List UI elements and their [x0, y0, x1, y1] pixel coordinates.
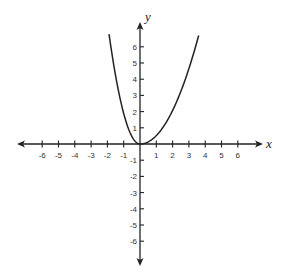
parabola-graph: x y -6-5-4-3-2-1123456-6-5-4-3-2-1123456 — [0, 0, 293, 277]
x-tick-label: 1 — [154, 151, 159, 160]
x-tick-label: 4 — [203, 151, 208, 160]
y-tick-label: -6 — [130, 237, 138, 246]
y-tick-label: -5 — [130, 221, 138, 230]
x-tick-label: 6 — [236, 151, 241, 160]
x-tick-label: 3 — [187, 151, 192, 160]
y-tick-label: 6 — [133, 43, 138, 52]
x-tick-label: -2 — [104, 151, 112, 160]
x-tick-label: 2 — [170, 151, 175, 160]
x-tick-label: -3 — [88, 151, 96, 160]
x-tick-label: -6 — [39, 151, 47, 160]
x-tick-label: -5 — [55, 151, 63, 160]
y-tick-label: -1 — [130, 156, 138, 165]
x-tick-label: -1 — [120, 151, 128, 160]
x-tick-label: -4 — [71, 151, 79, 160]
x-tick-label: 5 — [219, 151, 224, 160]
y-tick-label: 4 — [133, 75, 138, 84]
y-tick-label: -2 — [130, 172, 138, 181]
y-tick-label: 1 — [133, 124, 138, 133]
y-tick-label: -3 — [130, 189, 138, 198]
y-tick-label: 3 — [133, 91, 138, 100]
y-tick-label: 2 — [133, 108, 138, 117]
y-tick-label: 5 — [133, 59, 138, 68]
y-tick-label: -4 — [130, 205, 138, 214]
x-axis-label: x — [265, 136, 272, 151]
right-branch-curve — [140, 35, 199, 144]
curves — [109, 34, 199, 144]
y-axis-label: y — [143, 9, 151, 24]
